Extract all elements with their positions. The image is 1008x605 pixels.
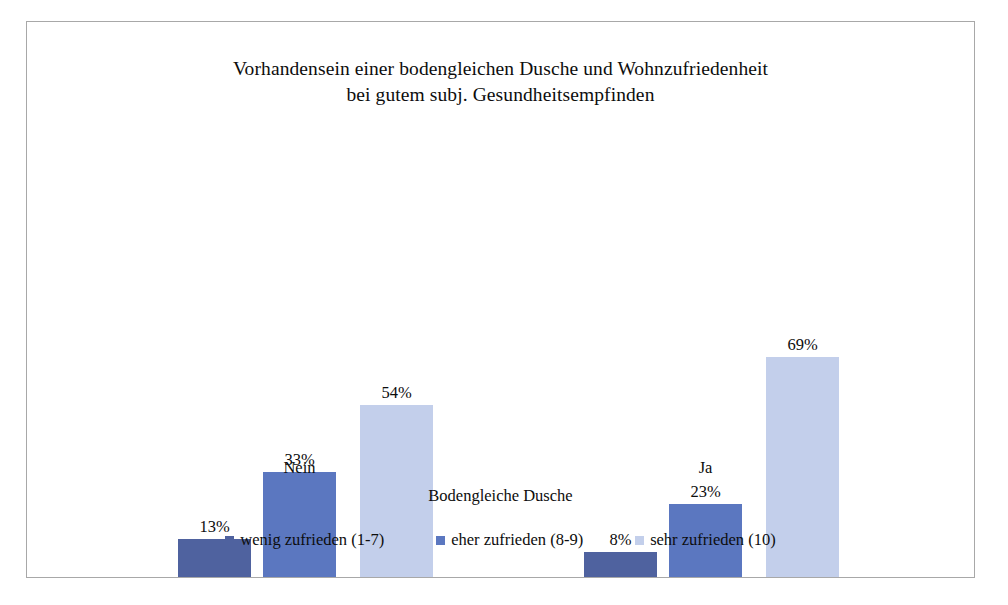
legend-swatch-icon <box>635 536 644 545</box>
legend-item-wenig-zufrieden[interactable]: wenig zufrieden (1-7) <box>225 530 384 550</box>
legend-swatch-icon <box>225 536 234 545</box>
legend-label: wenig zufrieden (1-7) <box>240 530 384 550</box>
legend-label: sehr zufrieden (10) <box>650 530 776 550</box>
bar-ja-wenig-zufrieden[interactable] <box>584 552 657 577</box>
bar-value-label-ja-sehr: 69% <box>787 335 817 355</box>
chart-figure-frame: Vorhandensein einer bodengleichen Dusche… <box>26 21 975 578</box>
bar-wrap-ja-sehr: 69% <box>766 168 839 577</box>
category-label-ja: Ja <box>669 458 742 478</box>
bar-wrap-ja-eher: 23% <box>669 168 742 577</box>
x-axis-title: Bodengleiche Dusche <box>27 486 974 506</box>
legend-item-eher-zufrieden[interactable]: eher zufrieden (8-9) <box>436 530 583 550</box>
chart-legend: wenig zufrieden (1-7) eher zufrieden (8-… <box>27 530 974 550</box>
legend-item-sehr-zufrieden[interactable]: sehr zufrieden (10) <box>635 530 776 550</box>
legend-label: eher zufrieden (8-9) <box>451 530 583 550</box>
legend-swatch-icon <box>436 536 445 545</box>
bar-wrap-ja-wenig: 8% <box>584 168 657 577</box>
